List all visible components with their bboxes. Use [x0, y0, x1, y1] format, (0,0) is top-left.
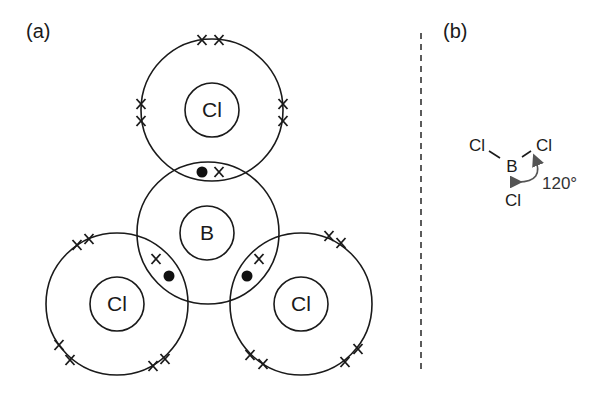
top-chlorine-symbol: Cl — [202, 98, 222, 122]
boron-symbol: B — [200, 221, 214, 245]
shape-bottom-chlorine: Cl — [505, 191, 521, 211]
left-chlorine-symbol: Cl — [107, 292, 127, 316]
bonding-pair-top — [197, 167, 224, 178]
shape-boron: B — [506, 157, 517, 177]
bond-left — [489, 151, 500, 158]
panel-b-label: (b) — [443, 20, 467, 43]
shape-left-chlorine: Cl — [469, 136, 485, 156]
bond-angle-label: 120° — [542, 174, 577, 194]
bond-angle-arrow — [518, 158, 538, 182]
right-chlorine-symbol: Cl — [291, 292, 311, 316]
boron-electron-dot — [242, 271, 253, 282]
bonding-pair-right — [242, 254, 264, 282]
boron-electron-dot — [197, 167, 208, 178]
boron-electron-dot — [164, 271, 175, 282]
panel-a-label: (a) — [26, 20, 50, 43]
bond-right — [522, 151, 531, 157]
shape-right-chlorine: Cl — [536, 136, 552, 156]
